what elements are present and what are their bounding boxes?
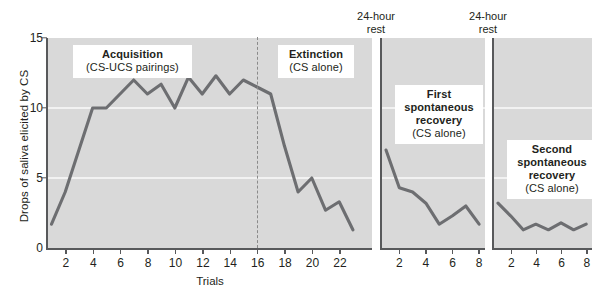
- y-tick-mark-5: [42, 177, 47, 178]
- rest-header-1: 24-hour rest: [331, 10, 421, 36]
- x-tick-label-p2-8: 8: [467, 256, 491, 270]
- x-tick-p3-4: [536, 249, 537, 254]
- y-tick-label-10: 10: [21, 101, 43, 115]
- x-tick-12: [202, 249, 203, 254]
- x-tick-label-2: 2: [54, 256, 78, 270]
- x-tick-label-12: 12: [191, 256, 215, 270]
- x-tick-label-20: 20: [301, 256, 325, 270]
- x-tick-label-p3-6: 6: [550, 256, 574, 270]
- y-tick-label-15: 15: [21, 31, 43, 45]
- callout-extinction: Extinction (CS alone): [278, 45, 354, 78]
- x-tick-p3-8: [586, 249, 587, 254]
- x-tick-label-p3-4: 4: [525, 256, 549, 270]
- x-tick-label-4: 4: [81, 256, 105, 270]
- callout-second-recovery-title-1: Second: [514, 143, 590, 156]
- x-tick-p2-4: [425, 249, 426, 254]
- panel-3-y-axis-line: [492, 38, 494, 248]
- callout-extinction-title: Extinction: [285, 48, 347, 61]
- x-tick-label-p3-8: 8: [575, 256, 599, 270]
- y-tick-mark-10: [42, 107, 47, 108]
- rest-header-1-line2: rest: [331, 23, 421, 36]
- callout-acquisition: Acquisition (CS-UCS pairings): [73, 45, 192, 78]
- x-tick-20: [312, 249, 313, 254]
- panel-2-x-axis-line: [380, 248, 485, 250]
- callout-extinction-subtitle: (CS alone): [285, 61, 347, 74]
- x-tick-p3-6: [561, 249, 562, 254]
- x-tick-label-22: 22: [328, 256, 352, 270]
- x-tick-p2-2: [399, 249, 400, 254]
- x-tick-18: [284, 249, 285, 254]
- x-tick-label-p2-4: 4: [414, 256, 438, 270]
- x-tick-p2-6: [452, 249, 453, 254]
- data-line-first-recovery: [386, 150, 479, 224]
- rest-header-2: 24-hour rest: [443, 10, 533, 36]
- callout-acquisition-title: Acquisition: [80, 48, 185, 61]
- y-tick-mark-15: [42, 37, 47, 38]
- callout-acquisition-subtitle: (CS-UCS pairings): [80, 61, 185, 74]
- x-tick-label-p2-6: 6: [441, 256, 465, 270]
- x-tick-2: [65, 249, 66, 254]
- panel-1-x-axis-line: [46, 248, 372, 250]
- callout-second-recovery-title-3: recovery: [514, 169, 590, 182]
- data-line-second-recovery: [498, 203, 586, 230]
- spontaneous-recovery-chart: Drops of saliva elicited by CS 15 10 5 0…: [0, 0, 610, 302]
- y-tick-label-0: 0: [21, 241, 43, 255]
- y-tick-label-5: 5: [21, 171, 43, 185]
- x-tick-8: [147, 249, 148, 254]
- x-tick-label-16: 16: [246, 256, 270, 270]
- x-tick-label-p2-2: 2: [387, 256, 411, 270]
- callout-second-recovery-title-2: spontaneous: [514, 156, 590, 169]
- x-tick-label-6: 6: [109, 256, 133, 270]
- y-axis-label: Drops of saliva elicited by CS: [18, 46, 30, 246]
- callout-second-spontaneous-recovery: Second spontaneous recovery (CS alone): [507, 140, 597, 199]
- x-tick-label-10: 10: [164, 256, 188, 270]
- panel-3-x-axis-line: [492, 248, 592, 250]
- x-tick-4: [93, 249, 94, 254]
- callout-first-spontaneous-recovery: First spontaneous recovery (CS alone): [395, 85, 483, 144]
- callout-first-recovery-subtitle: (CS alone): [402, 127, 476, 140]
- x-axis-title: Trials: [170, 275, 250, 287]
- x-tick-p3-2: [511, 249, 512, 254]
- x-tick-16: [257, 249, 258, 254]
- x-tick-label-14: 14: [218, 256, 242, 270]
- x-tick-22: [339, 249, 340, 254]
- callout-second-recovery-subtitle: (CS alone): [514, 182, 590, 195]
- panel-2-y-axis-line: [380, 38, 382, 248]
- x-tick-6: [120, 249, 121, 254]
- phase-divider-dashed-line: [257, 37, 258, 248]
- x-tick-14: [230, 249, 231, 254]
- x-tick-label-18: 18: [273, 256, 297, 270]
- data-line-acquisition-extinction: [52, 76, 353, 230]
- x-tick-label-p3-2: 2: [499, 256, 523, 270]
- callout-first-recovery-title-2: spontaneous: [402, 101, 476, 114]
- rest-header-2-line1: 24-hour: [443, 10, 533, 23]
- x-tick-p2-8: [478, 249, 479, 254]
- x-tick-label-8: 8: [136, 256, 160, 270]
- x-tick-10: [175, 249, 176, 254]
- rest-header-2-line2: rest: [443, 23, 533, 36]
- rest-header-1-line1: 24-hour: [331, 10, 421, 23]
- callout-first-recovery-title-1: First: [402, 88, 476, 101]
- callout-first-recovery-title-3: recovery: [402, 114, 476, 127]
